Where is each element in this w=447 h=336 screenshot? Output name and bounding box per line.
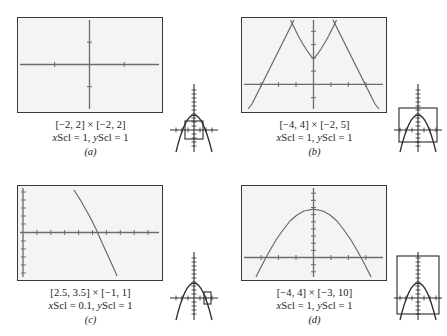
panel-label-d: (d)	[232, 314, 397, 325]
scl-y-text-a: Scl = 1	[98, 132, 129, 143]
graph-a	[18, 18, 161, 111]
panel-b: [−4, 4] × [−2, 5] xScl = 1, yScl = 1 (b)	[224, 0, 447, 168]
panel-a: [−2, 2] × [−2, 2] xScl = 1, yScl = 1 (a)	[0, 0, 223, 168]
range-text-c: [2.5, 3.5] × [−1, 1]	[8, 286, 173, 299]
thumb-y-ticks	[416, 258, 421, 314]
caption-b: [−4, 4] × [−2, 5] xScl = 1, yScl = 1	[232, 118, 397, 144]
caption-c: [2.5, 3.5] × [−1, 1] xScl = 0.1, yScl = …	[8, 286, 173, 312]
graph-c	[18, 186, 161, 279]
thumbnail-graph-a	[168, 80, 220, 154]
panel-label-b: (b)	[232, 146, 397, 157]
calculator-screen-b	[241, 17, 387, 113]
calculator-screen-c	[17, 185, 163, 281]
thumbnail-graph-d	[392, 248, 444, 322]
scl-x-text-c: Scl = 0.1,	[53, 300, 97, 311]
thumbnail-c	[168, 248, 220, 322]
thumbnail-d	[392, 248, 444, 322]
range-text-b: [−4, 4] × [−2, 5]	[232, 118, 397, 131]
caption-a: [−2, 2] × [−2, 2] xScl = 1, yScl = 1	[8, 118, 173, 144]
curve-right-branch	[333, 20, 379, 109]
graph-d	[242, 186, 385, 279]
calculator-screen-a	[17, 17, 163, 113]
scale-text-d: xScl = 1, yScl = 1	[232, 299, 397, 312]
scl-y-text-d: Scl = 1	[322, 300, 353, 311]
scl-x-text-a: Scl = 1,	[57, 132, 93, 143]
thumb-y-ticks	[192, 258, 197, 314]
curve-left-branch	[248, 20, 294, 109]
thumbnail-a	[168, 80, 220, 154]
range-text-d: [−4, 4] × [−3, 10]	[232, 286, 397, 299]
panel-label-a: (a)	[8, 146, 173, 157]
scale-text-a: xScl = 1, yScl = 1	[8, 131, 173, 144]
scale-text-c: xScl = 0.1, yScl = 1	[8, 299, 173, 312]
graph-b	[242, 18, 385, 111]
panel-d: [−4, 4] × [−3, 10] xScl = 1, yScl = 1 (d…	[224, 168, 447, 336]
panel-c: [2.5, 3.5] × [−1, 1] xScl = 0.1, yScl = …	[0, 168, 223, 336]
thumbnail-graph-b	[392, 80, 444, 154]
figure-calculator-windows: [−2, 2] × [−2, 2] xScl = 1, yScl = 1 (a)	[0, 0, 447, 336]
range-text-a: [−2, 2] × [−2, 2]	[8, 118, 173, 131]
thumbnail-graph-c	[168, 248, 220, 322]
panel-label-c: (c)	[8, 314, 173, 325]
scl-x-text-b: Scl = 1,	[281, 132, 317, 143]
caption-d: [−4, 4] × [−3, 10] xScl = 1, yScl = 1	[232, 286, 397, 312]
scl-y-text-b: Scl = 1	[322, 132, 353, 143]
scale-text-b: xScl = 1, yScl = 1	[232, 131, 397, 144]
scl-y-text-c: Scl = 1	[102, 300, 133, 311]
scl-x-text-d: Scl = 1,	[281, 300, 317, 311]
thumbnail-b	[392, 80, 444, 154]
calculator-screen-d	[241, 185, 387, 281]
